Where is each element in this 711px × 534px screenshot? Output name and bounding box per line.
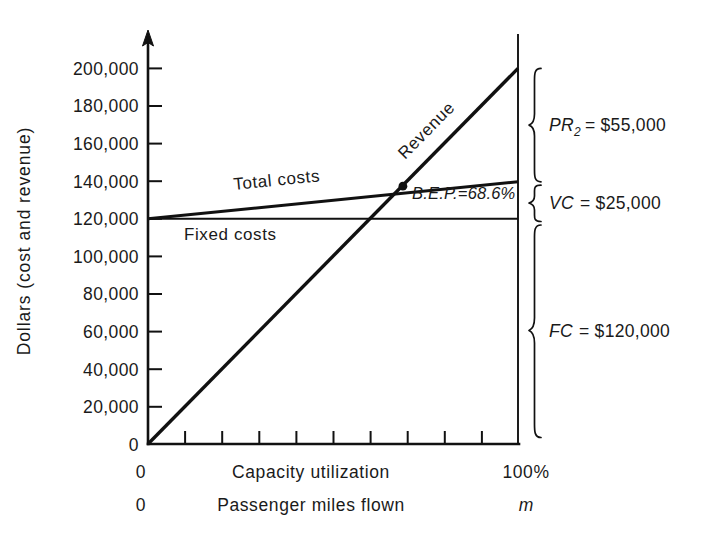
y-tick-label-120000: 120,000: [73, 209, 139, 229]
pr2-value: = $55,000: [585, 115, 666, 135]
x-axis-end-label-2: m: [519, 495, 534, 515]
y-axis: [143, 30, 154, 444]
break-even-point-label: B.E.P.=68.6%: [412, 184, 515, 202]
series-label-fixed-costs: Fixed costs: [184, 225, 277, 244]
series-label-revenue: Revenue: [394, 98, 458, 163]
x-axis-end-label: 100%: [502, 462, 549, 482]
series-label-total-costs: Total costs: [232, 166, 320, 194]
vc-value: = $25,000: [580, 193, 661, 213]
y-tick-label-180000: 180,000: [73, 96, 139, 116]
x-axis-ticks: [185, 431, 482, 444]
y-axis-title: Dollars (cost and revenue): [14, 127, 34, 356]
x-axis-origin-label-2: 0: [136, 495, 146, 515]
pr2-subscript: 2: [573, 125, 581, 139]
profit-brace-label: PR2= $55,000: [549, 115, 666, 139]
x-axis-title-2: Passenger miles flown: [217, 495, 405, 515]
y-tick-label-60000: 60,000: [83, 322, 139, 342]
svg-text:VC= $25,000: VC= $25,000: [549, 193, 661, 213]
y-tick-label-200000: 200,000: [73, 59, 139, 79]
y-tick-label-80000: 80,000: [83, 284, 139, 304]
profit-brace: [529, 68, 541, 181]
y-tick-label-40000: 40,000: [83, 360, 139, 380]
x-axis-title: Capacity utilization: [232, 462, 390, 482]
breakeven-chart: 200,000 180,000 160,000 140,000 120,000 …: [0, 0, 711, 534]
y-tick-label-20000: 20,000: [83, 397, 139, 417]
fixed-cost-brace: [529, 225, 541, 438]
vc-symbol: VC: [549, 193, 574, 213]
y-tick-label-0: 0: [129, 435, 139, 455]
y-tick-label-160000: 160,000: [73, 134, 139, 154]
fixed-cost-brace-label: FC= $120,000: [549, 321, 670, 341]
fc-symbol: FC: [549, 321, 573, 341]
fc-value: = $120,000: [579, 321, 670, 341]
y-tick-label-140000: 140,000: [73, 172, 139, 192]
svg-text:FC= $120,000: FC= $120,000: [549, 321, 670, 341]
break-even-point-marker: [399, 182, 408, 191]
y-axis-tick-labels: 200,000 180,000 160,000 140,000 120,000 …: [73, 59, 139, 455]
y-tick-label-100000: 100,000: [73, 247, 139, 267]
chart-svg: 200,000 180,000 160,000 140,000 120,000 …: [0, 0, 711, 534]
series-line-revenue: [148, 68, 518, 444]
y-axis-ticks: [148, 68, 162, 406]
variable-cost-brace-label: VC= $25,000: [549, 193, 661, 213]
variable-cost-brace: [529, 185, 541, 221]
svg-text:PR2= $55,000: PR2= $55,000: [549, 115, 666, 139]
x-axis-origin-label: 0: [136, 462, 146, 482]
pr2-symbol: PR: [549, 115, 574, 135]
